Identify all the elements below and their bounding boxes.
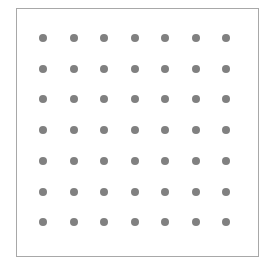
grid-dot: [192, 65, 200, 73]
grid-dot: [100, 65, 108, 73]
grid-dot: [131, 188, 139, 196]
grid-dot: [161, 157, 169, 165]
grid-dot: [131, 95, 139, 103]
grid-dot: [161, 188, 169, 196]
grid-dot: [39, 65, 47, 73]
grid-dot: [39, 34, 47, 42]
grid-dot: [131, 65, 139, 73]
grid-dot: [192, 95, 200, 103]
grid-dot: [131, 157, 139, 165]
grid-dot: [70, 34, 78, 42]
grid-dot: [192, 34, 200, 42]
grid-dot: [70, 126, 78, 134]
grid-dot: [222, 188, 230, 196]
grid-dot: [100, 157, 108, 165]
grid-dot: [192, 218, 200, 226]
grid-dot: [70, 65, 78, 73]
grid-dot: [161, 65, 169, 73]
grid-dot: [70, 218, 78, 226]
grid-dot: [192, 188, 200, 196]
grid-dot: [222, 65, 230, 73]
grid-dot: [161, 34, 169, 42]
grid-dot: [39, 157, 47, 165]
grid-dot: [100, 188, 108, 196]
grid-dot: [131, 218, 139, 226]
grid-dot: [39, 188, 47, 196]
grid-dot: [131, 34, 139, 42]
grid-dot: [222, 157, 230, 165]
grid-dot: [192, 157, 200, 165]
grid-dot: [70, 188, 78, 196]
grid-dot: [70, 157, 78, 165]
grid-dot: [131, 126, 139, 134]
grid-dot: [222, 34, 230, 42]
grid-dot: [70, 95, 78, 103]
grid-dot: [100, 34, 108, 42]
grid-dot: [192, 126, 200, 134]
